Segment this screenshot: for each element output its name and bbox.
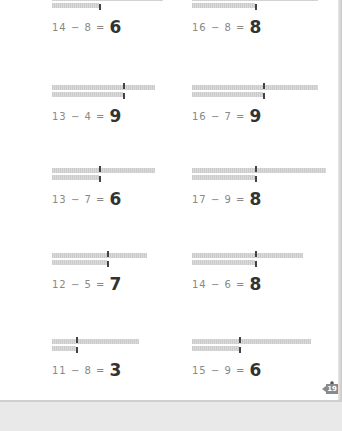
minuend-bar xyxy=(52,85,155,90)
equation: 14 − 6 =8 xyxy=(192,274,261,294)
answer-bar xyxy=(52,346,76,351)
dashed-divider xyxy=(107,251,109,267)
answer-bar xyxy=(192,92,263,97)
minuend-bar xyxy=(52,339,139,344)
equation-expression: 11 − 8 = xyxy=(52,365,105,376)
equation-expression: 14 − 6 = xyxy=(192,279,245,290)
bottom-band xyxy=(0,400,342,431)
minuend-bar xyxy=(192,339,311,344)
answer-bar xyxy=(52,3,99,8)
equation: 14 − 8 =6 xyxy=(52,17,121,37)
dashed-divider xyxy=(255,0,257,10)
minuend-bar xyxy=(192,253,303,258)
answer-bar xyxy=(192,260,255,265)
dashed-divider xyxy=(99,0,101,10)
dashed-divider xyxy=(123,83,125,99)
dashed-divider xyxy=(99,166,101,182)
equation: 12 − 5 =7 xyxy=(52,274,121,294)
page-number-badge: 19 xyxy=(326,384,338,394)
dashed-divider xyxy=(239,337,241,353)
equation: 17 − 9 =8 xyxy=(192,189,261,209)
minuend-bar xyxy=(52,168,155,173)
equation-answer: 6 xyxy=(249,360,261,380)
dashed-divider xyxy=(263,83,265,99)
worksheet-page: 14 − 8 =616 − 8 =813 − 4 =916 − 7 =913 −… xyxy=(0,0,338,400)
minuend-bar xyxy=(192,168,326,173)
equation-answer: 3 xyxy=(109,360,121,380)
mascot-icon xyxy=(328,375,336,384)
equation-answer: 6 xyxy=(109,17,121,37)
answer-bar xyxy=(192,346,239,351)
minuend-bar xyxy=(192,85,318,90)
dashed-divider xyxy=(255,251,257,267)
equation: 16 − 8 =8 xyxy=(192,17,261,37)
equation: 15 − 9 =6 xyxy=(192,360,261,380)
dashed-divider xyxy=(76,337,78,353)
equation: 16 − 7 =9 xyxy=(192,106,261,126)
equation-answer: 8 xyxy=(249,274,261,294)
equation-expression: 12 − 5 = xyxy=(52,279,105,290)
equation-expression: 13 − 7 = xyxy=(52,194,105,205)
equation: 13 − 4 =9 xyxy=(52,106,121,126)
equation-answer: 6 xyxy=(109,189,121,209)
minuend-bar xyxy=(52,253,147,258)
answer-bar xyxy=(52,260,107,265)
dashed-divider xyxy=(255,166,257,182)
equation-answer: 7 xyxy=(109,274,121,294)
equation-expression: 14 − 8 = xyxy=(52,22,105,33)
equation: 13 − 7 =6 xyxy=(52,189,121,209)
equation-expression: 16 − 8 = xyxy=(192,22,245,33)
equation: 11 − 8 =3 xyxy=(52,360,121,380)
equation-expression: 16 − 7 = xyxy=(192,111,245,122)
equation-expression: 13 − 4 = xyxy=(52,111,105,122)
minuend-bar xyxy=(52,0,163,1)
equation-answer: 8 xyxy=(249,17,261,37)
answer-bar xyxy=(192,175,255,180)
answer-bar xyxy=(52,175,99,180)
equation-answer: 9 xyxy=(249,106,261,126)
answer-bar xyxy=(52,92,123,97)
equation-answer: 8 xyxy=(249,189,261,209)
equation-expression: 17 − 9 = xyxy=(192,194,245,205)
equation-answer: 9 xyxy=(109,106,121,126)
page-edge xyxy=(338,0,342,400)
answer-bar xyxy=(192,3,255,8)
equation-expression: 15 − 9 = xyxy=(192,365,245,376)
